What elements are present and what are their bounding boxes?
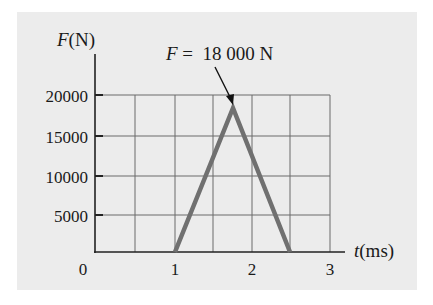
grid bbox=[95, 95, 330, 252]
annotation-arrow-head-icon bbox=[226, 94, 234, 105]
y-tick-marks bbox=[95, 95, 103, 215]
y-tick-20000: 20000 bbox=[46, 87, 89, 106]
annotation-label: F = 18 000 N bbox=[165, 43, 274, 64]
x-tick-1: 1 bbox=[171, 260, 180, 279]
force-time-chart: F(N) F = 18 000 N 20000 15000 10000 5000… bbox=[0, 0, 433, 305]
x-tick-0: 0 bbox=[79, 260, 88, 279]
annotation-arrow-shaft bbox=[215, 67, 231, 99]
force-series-line bbox=[175, 108, 290, 252]
x-tick-2: 2 bbox=[248, 260, 257, 279]
x-tick-3: 3 bbox=[326, 260, 335, 279]
y-tick-15000: 15000 bbox=[46, 128, 89, 147]
y-tick-5000: 5000 bbox=[54, 207, 88, 226]
y-tick-10000: 10000 bbox=[46, 168, 89, 187]
y-axis-label: F(N) bbox=[56, 29, 95, 51]
x-axis-label: t(ms) bbox=[354, 240, 394, 262]
